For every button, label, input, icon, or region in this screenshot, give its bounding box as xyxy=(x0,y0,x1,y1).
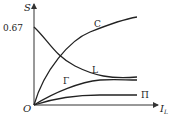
y-axis-label: S xyxy=(24,2,31,13)
curve-c xyxy=(34,17,137,105)
origin-label: O xyxy=(23,103,31,114)
curve-l-label: L xyxy=(92,65,98,75)
curve-pi-label: Π xyxy=(141,90,149,100)
curve-c-label: C xyxy=(94,19,101,29)
curve-gamma-label: Γ xyxy=(63,76,69,86)
ytick-label: 0.67 xyxy=(3,23,23,33)
chart: S 0.67 O IL C L Γ Π xyxy=(0,0,178,118)
x-axis-label: IL xyxy=(159,103,168,115)
